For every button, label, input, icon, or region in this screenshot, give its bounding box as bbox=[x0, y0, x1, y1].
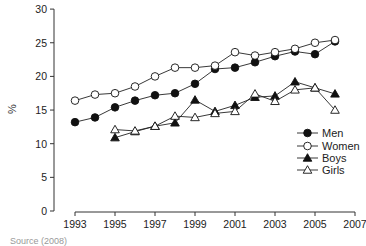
legend-item-boys: Boys bbox=[297, 152, 347, 164]
women-marker-circle bbox=[151, 73, 159, 81]
series-markers-women bbox=[71, 36, 339, 104]
y-tick-label: 15 bbox=[35, 104, 47, 116]
legend-marker-girls bbox=[303, 166, 312, 174]
men-marker-circle bbox=[111, 104, 119, 112]
x-tick-label: 1999 bbox=[183, 218, 207, 230]
x-tick-label: 2003 bbox=[263, 218, 287, 230]
men-marker-circle bbox=[71, 118, 79, 126]
legend-item-girls: Girls bbox=[297, 164, 345, 176]
women-marker-circle bbox=[71, 97, 79, 105]
series-line-girls bbox=[115, 88, 335, 131]
y-axis: 051015202530 bbox=[35, 3, 54, 217]
x-tick-label: 2007 bbox=[343, 218, 366, 230]
boys-marker-triangle bbox=[191, 96, 200, 104]
series-group bbox=[71, 36, 339, 141]
women-marker-circle bbox=[91, 91, 99, 99]
y-tick-label: 10 bbox=[35, 138, 47, 150]
boys-marker-triangle bbox=[291, 77, 300, 85]
y-tick-label: 20 bbox=[35, 70, 47, 82]
x-tick-label: 1995 bbox=[103, 218, 127, 230]
y-axis-label: % bbox=[6, 104, 18, 114]
women-marker-circle bbox=[271, 48, 279, 56]
legend-label-women: Women bbox=[322, 140, 360, 152]
y-tick-label: 0 bbox=[41, 205, 47, 217]
x-tick-label: 1993 bbox=[63, 218, 87, 230]
x-axis: 19931995199719992001200320052007 bbox=[63, 212, 366, 230]
men-marker-circle bbox=[191, 80, 199, 88]
women-marker-circle bbox=[331, 36, 339, 44]
women-marker-circle bbox=[191, 64, 199, 72]
legend-item-women: Women bbox=[297, 140, 360, 152]
y-tick-label: 5 bbox=[41, 171, 47, 183]
series-line-boys bbox=[115, 82, 335, 138]
legend-label-men: Men bbox=[322, 127, 343, 139]
legend: MenWomenBoysGirls bbox=[297, 127, 360, 176]
women-marker-circle bbox=[171, 64, 179, 72]
legend-marker-boys bbox=[303, 154, 312, 162]
women-marker-circle bbox=[291, 45, 299, 53]
men-marker-circle bbox=[311, 50, 319, 58]
women-marker-circle bbox=[311, 39, 319, 47]
series-girls bbox=[115, 88, 335, 131]
series-markers-girls bbox=[111, 84, 340, 135]
y-tick-label: 30 bbox=[35, 3, 47, 15]
men-marker-circle bbox=[231, 64, 239, 72]
y-tick-label: 25 bbox=[35, 37, 47, 49]
x-tick-label: 2005 bbox=[303, 218, 327, 230]
men-marker-circle bbox=[131, 97, 139, 105]
men-marker-circle bbox=[91, 114, 99, 122]
women-marker-circle bbox=[251, 52, 259, 60]
legend-label-boys: Boys bbox=[322, 152, 347, 164]
girls-marker-triangle bbox=[171, 112, 180, 120]
men-marker-circle bbox=[171, 89, 179, 97]
girls-marker-triangle bbox=[111, 125, 120, 133]
x-tick-label: 1997 bbox=[143, 218, 167, 230]
legend-item-men: Men bbox=[297, 127, 343, 139]
series-boys bbox=[115, 82, 335, 138]
legend-marker-men bbox=[304, 129, 312, 137]
x-tick-label: 2001 bbox=[223, 218, 247, 230]
men-marker-circle bbox=[151, 91, 159, 99]
women-marker-circle bbox=[231, 48, 239, 56]
legend-label-girls: Girls bbox=[322, 164, 345, 176]
women-marker-circle bbox=[111, 89, 119, 97]
women-marker-circle bbox=[211, 62, 219, 70]
girls-marker-triangle bbox=[251, 90, 260, 98]
source-note: Source (2008) bbox=[10, 236, 67, 246]
legend-marker-women bbox=[304, 142, 312, 150]
women-marker-circle bbox=[131, 83, 139, 91]
